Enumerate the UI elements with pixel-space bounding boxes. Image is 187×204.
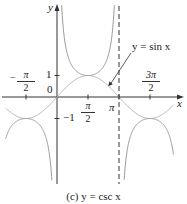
sin-curve-annotation: y = sin x [132, 41, 170, 52]
x-tick-three-pi-half-label: 3π 2 [142, 70, 160, 93]
annotation-arrow-line [110, 53, 131, 84]
csc-branch-left [6, 119, 52, 181]
origin-label: 0 [47, 84, 53, 95]
x-axis-label: x [177, 98, 182, 109]
csc-branch-right [124, 119, 173, 180]
y-axis-label: y [48, 2, 53, 13]
y-tick-1-label: 1 [46, 69, 52, 80]
x-tick-pi-label: π [109, 102, 115, 113]
chart-caption: (c) y = csc x [0, 190, 187, 202]
csc-branch-middle [62, 5, 115, 75]
y-axis-arrow-icon [55, 4, 60, 11]
x-tick-pi-half-label: π 2 [81, 101, 95, 124]
x-tick-neg-pi-half-label: − π 2 [17, 70, 35, 93]
y-tick-minus1-label: −1 [63, 112, 75, 123]
